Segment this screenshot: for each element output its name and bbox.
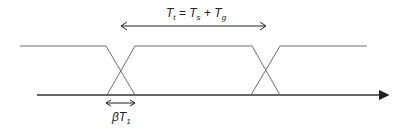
signal-segment-1: [20, 46, 135, 95]
period-label: Tt = Ts + Tg: [166, 6, 227, 22]
transition-label: βT1: [111, 110, 131, 126]
signal-segment-3: [251, 46, 367, 95]
timing-diagram: Tt = Ts + Tg βT1: [0, 0, 413, 131]
period-arrow: [121, 22, 266, 30]
transition-arrow: [106, 100, 135, 106]
signal-segment-2: [107, 46, 280, 95]
